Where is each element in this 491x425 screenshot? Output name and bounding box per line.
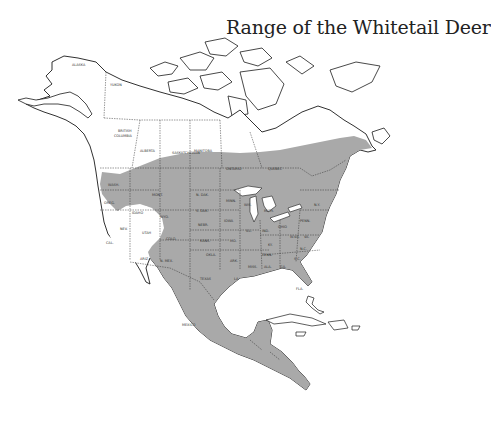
bahamas [306,296,324,314]
jamaica [296,332,306,336]
label-penn: PENN. [300,219,310,223]
label-okla: OKLA. [206,253,216,257]
label-manitoba: MANITOBA [194,149,213,153]
label-ill: ILL. [246,229,252,233]
label-ariz: ARIZ. [140,257,149,261]
label-la: LA. [234,277,239,281]
newfoundland [372,128,390,144]
label-ark: ARK. [230,259,238,263]
label-colo: COLO. [166,237,176,241]
label-quebec: QUEBEC [268,167,283,171]
label-oreg: OREG. [104,201,115,205]
label-ga: GA. [280,265,286,269]
label-ny: N.Y. [314,203,321,207]
label-minn: MINN. [226,199,236,203]
label-mont: MONT. [152,193,163,197]
label-ohio: OHIO [278,225,287,229]
label-british-columbia-2: COLUMBIA [114,134,132,138]
label-utah: UTAH [142,231,152,235]
label-miss: MISS. [248,265,257,269]
label-nev: NEV. [120,227,128,231]
label-british-columbia-1: BRITISH [118,129,132,133]
label-mich: MICH. [264,209,274,213]
label-alberta: ALBERTA [140,149,156,153]
label-cal: CAL. [106,241,114,245]
label-sdak: S. DAK. [196,209,208,213]
label-kans: KANS. [200,239,210,243]
label-nebr: NEBR. [198,223,208,227]
label-mo: MO. [230,239,237,243]
label-fla: FLA. [296,287,303,291]
label-iowa: IOWA [224,219,234,223]
label-yukon: YUKON [110,83,122,87]
label-mexico: MEXICO [182,323,196,327]
label-ontario: ONTARIO [226,167,242,171]
label-wash: WASH. [108,183,119,187]
label-wyo: WYO. [160,215,169,219]
label-ala: ALA. [264,265,272,269]
puerto-rico [352,326,360,330]
label-nc: N.C. [300,247,307,251]
label-ndak: N. DAK. [196,193,209,197]
label-wva: W.VA. [290,235,299,239]
label-idaho: IDAHO [132,211,143,215]
cuba [266,314,326,326]
label-nmex: N. MEX. [160,259,173,263]
label-va: VA. [304,235,309,239]
label-ky: KY. [268,243,273,247]
hispaniola [328,320,348,330]
label-tenn: TENN. [261,253,272,257]
label-sc: S.C. [294,257,301,261]
label-wis: WIS. [244,203,252,207]
label-alaska: ALASKA [72,63,86,67]
caribbean-islands [266,296,360,336]
label-ind: IND. [262,229,269,233]
label-texas: TEXAS [199,277,211,281]
